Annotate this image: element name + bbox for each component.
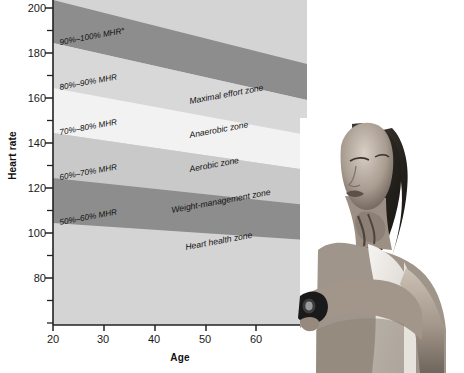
y-axis-minor-ticks [47,31,53,324]
y-axis-major-ticks [45,8,53,278]
photo-shadow [316,318,404,373]
athlete-photo [298,118,464,373]
x-axis-ticks [53,325,307,331]
heart-rate-training-zones-figure: Heart rate Age 200 180 160 140 120 100 8… [0,0,464,373]
chart-canvas: 90%–100% MHR* 80%–90% MHR 70%–80% MHR 60… [0,0,464,373]
photo-watch-dial [305,302,312,311]
